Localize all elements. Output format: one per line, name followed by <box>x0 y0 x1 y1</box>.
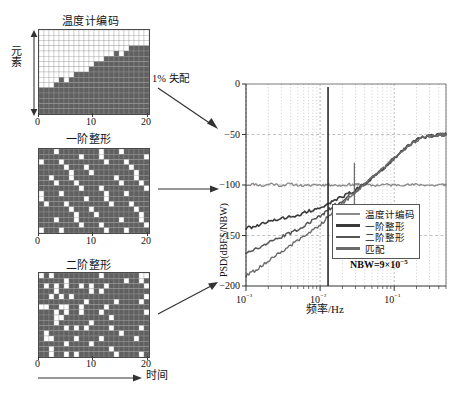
legend-swatch-0 <box>336 213 360 216</box>
psd-chart: PSD(dBFS/NBW) 0−50−100−150−200 频率/Hz 温度计… <box>210 62 452 324</box>
legend-label-3: 匹配 <box>365 242 385 256</box>
grid-panel-first-order <box>38 148 150 234</box>
chart-nbw-annotation: NBW=9×10−5 <box>350 258 408 270</box>
mismatch-annotation: 1% 失配 <box>152 70 189 85</box>
first-order-cells <box>39 149 149 233</box>
axis-label-p2-10: 10 <box>86 235 96 246</box>
chart-ytick-label: 0 <box>235 78 240 89</box>
figure-root: 温度计编码 元素 0 10 20 一阶整形 0 10 20 二阶整形 0 10 … <box>0 0 452 397</box>
chart-legend: 温度计编码一阶整形二阶整形匹配 <box>332 204 420 259</box>
time-axis-arrow <box>38 372 142 384</box>
chart-ytick-label: −200 <box>219 280 240 291</box>
panel-y-label-element-text: 元素 <box>10 46 22 68</box>
chart-xtick-label-2: 10⁻¹ <box>384 293 400 305</box>
chart-nbw-exponent: −5 <box>400 258 408 266</box>
panel-title-second-order: 二阶整形 <box>66 256 112 272</box>
legend-swatch-2 <box>336 236 360 239</box>
legend-swatch-1 <box>336 224 360 227</box>
grid-panel-second-order <box>38 272 150 358</box>
chart-nbw-text: NBW=9×10 <box>350 259 400 270</box>
axis-label-p2-0: 0 <box>35 235 40 246</box>
thermometer-cells <box>39 30 149 114</box>
chart-ytick-label: −100 <box>219 179 240 190</box>
legend-item-3: 匹配 <box>336 243 415 254</box>
axis-label-p1-10: 10 <box>86 116 96 127</box>
chart-xtick-label-1: 10⁻² <box>310 293 326 305</box>
chart-plot-area: 0−50−100−150−200 <box>210 62 452 324</box>
panel-title-first-order: 一阶整形 <box>66 130 112 146</box>
axis-label-p1-20: 20 <box>141 116 151 127</box>
panel-y-label-element: 元素 <box>10 46 22 68</box>
chart-y-axis-title: PSD(dBFS/NBW) <box>218 203 229 277</box>
axis-label-p2-20: 20 <box>141 235 151 246</box>
axis-label-p1-0: 0 <box>35 116 40 127</box>
axis-label-p3-10: 10 <box>86 358 96 369</box>
axis-label-p3-0: 0 <box>35 358 40 369</box>
second-order-cells <box>39 273 149 357</box>
legend-swatch-3 <box>336 247 360 250</box>
grid-panel-thermometer <box>38 29 150 115</box>
time-axis-label: 时间 <box>146 366 168 382</box>
chart-ytick-label: −50 <box>224 129 240 140</box>
chart-xtick-label-0: 10⁻³ <box>236 293 252 305</box>
panel-title-thermometer: 温度计编码 <box>62 12 119 28</box>
